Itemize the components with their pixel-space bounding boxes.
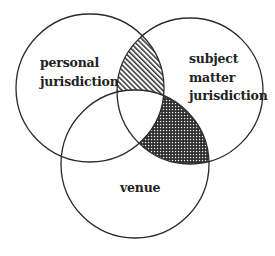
personal-jurisdiction-label: personal jurisdiction bbox=[39, 55, 119, 89]
venue-label: venue bbox=[119, 180, 161, 195]
subject-label-line-1: subject bbox=[189, 51, 239, 66]
venn-diagram: personal jurisdiction subject matter jur… bbox=[0, 0, 275, 256]
subject-label-line-3: jurisdiction bbox=[188, 88, 268, 103]
venue-label-line-1: venue bbox=[119, 180, 161, 195]
personal-label-line-1: personal bbox=[40, 55, 99, 70]
subject-label-line-2: matter bbox=[189, 70, 236, 85]
personal-label-line-2: jurisdiction bbox=[39, 74, 119, 89]
